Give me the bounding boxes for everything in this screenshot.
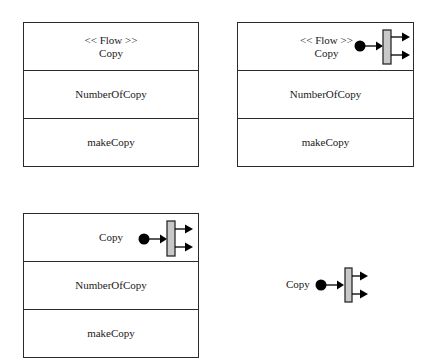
class-name-label: Copy	[315, 47, 339, 60]
class-name-label: Copy	[99, 231, 123, 244]
attribute-compartment: NumberOfCopy	[24, 261, 198, 309]
attribute-compartment: NumberOfCopy	[24, 70, 198, 118]
attribute-compartment: NumberOfCopy	[238, 70, 413, 118]
operation-compartment: makeCopy	[24, 118, 198, 166]
stereotype-label: << Flow >>	[300, 34, 353, 47]
attribute-label: NumberOfCopy	[290, 88, 362, 101]
attribute-label: NumberOfCopy	[75, 279, 147, 292]
stereotype-label: << Flow >>	[85, 34, 138, 47]
class-name-label: Copy	[99, 47, 123, 60]
operation-label: makeCopy	[87, 327, 135, 340]
name-compartment: << Flow >> Copy	[24, 23, 198, 70]
operation-label: makeCopy	[302, 136, 350, 149]
flow-fork-icon	[313, 266, 373, 306]
flow-fork-icon	[352, 28, 412, 68]
flow-fork-icon	[136, 220, 196, 260]
operation-compartment: makeCopy	[24, 309, 198, 357]
standalone-copy-label: Copy	[286, 278, 310, 291]
class-box-flow-copy: << Flow >> Copy NumberOfCopy makeCopy	[23, 22, 199, 167]
attribute-label: NumberOfCopy	[75, 88, 147, 101]
operation-compartment: makeCopy	[238, 118, 413, 166]
operation-label: makeCopy	[87, 136, 135, 149]
